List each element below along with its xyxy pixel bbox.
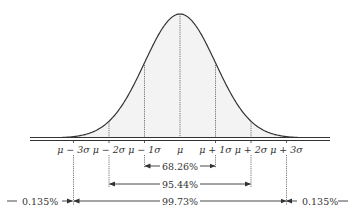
interval-label: 68.26% xyxy=(162,161,198,172)
interval-label: 95.44% xyxy=(162,179,198,190)
normal-distribution-diagram: μ − 3σμ − 2σμ − 1σμμ + 1σμ + 2σμ + 3σ 68… xyxy=(0,0,355,220)
axis-label-p1: μ + 1σ xyxy=(199,144,232,155)
axis-label-p2: μ + 2σ xyxy=(235,144,268,155)
interval-9973: 99.73% xyxy=(74,196,286,207)
baseline-axis xyxy=(30,138,330,141)
sigma-guides xyxy=(74,14,287,205)
left-tail: 0.135% xyxy=(7,196,73,207)
axis-label-p3: μ + 3σ xyxy=(270,144,303,155)
axis-label-m3: μ − 3σ xyxy=(57,144,90,155)
interval-label: 99.73% xyxy=(162,196,198,207)
axis-labels: μ − 3σμ − 2σμ − 1σμμ + 1σμ + 2σμ + 3σ xyxy=(57,144,303,155)
axis-label-m2: μ − 2σ xyxy=(93,144,126,155)
interval-6826: 68.26% xyxy=(145,161,215,172)
right-tail: 0.135% xyxy=(287,196,349,207)
right-tail-label: 0.135% xyxy=(302,196,338,207)
interval-9544: 95.44% xyxy=(110,179,251,190)
interval-arrows: 68.26%95.44%99.73% xyxy=(74,161,286,207)
left-tail-label: 0.135% xyxy=(22,196,58,207)
axis-label-m1: μ − 1σ xyxy=(128,144,161,155)
axis-label-mu: μ xyxy=(177,144,183,155)
